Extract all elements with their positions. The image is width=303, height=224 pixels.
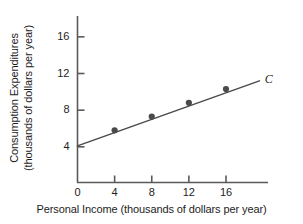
consumption-function-line <box>78 81 260 146</box>
y-axis-ticks <box>78 37 85 147</box>
chart-figure: Consumption Expenditures (thousands of d… <box>0 0 303 224</box>
data-point <box>223 86 229 92</box>
x-tick-label-12: 12 <box>178 187 200 198</box>
y-tick-label-16: 16 <box>48 31 70 42</box>
x-axis-ticks <box>115 176 226 183</box>
y-tick-label-12: 12 <box>48 68 70 79</box>
x-tick-label-0: 0 <box>67 187 89 198</box>
x-tick-label-16: 16 <box>215 187 237 198</box>
x-tick-label-8: 8 <box>141 187 163 198</box>
y-tick-label-8: 8 <box>48 104 70 115</box>
data-point <box>112 127 118 133</box>
curve-label-C: C <box>265 73 273 85</box>
x-axis-title: Personal Income (thousands of dollars pe… <box>0 203 303 215</box>
series-line-C <box>78 81 260 146</box>
y-tick-label-4: 4 <box>48 141 70 152</box>
data-point-markers <box>112 86 230 133</box>
data-point <box>186 100 192 106</box>
x-tick-label-4: 4 <box>104 187 126 198</box>
data-point <box>149 113 155 119</box>
